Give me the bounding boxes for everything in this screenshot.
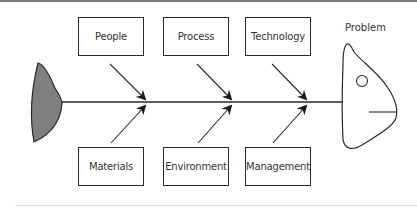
- cause-label: Process: [178, 31, 215, 42]
- cause-label: Environment: [165, 161, 227, 172]
- fish-head-icon: [342, 44, 396, 149]
- branch-arrow-materials: [111, 106, 145, 143]
- fish-eye-icon: [357, 76, 368, 87]
- cause-label: Materials: [89, 161, 133, 172]
- cause-label: People: [95, 31, 127, 42]
- cause-box-environment: Environment: [163, 147, 229, 186]
- cause-box-people: People: [78, 17, 144, 56]
- branch-arrow-technology: [272, 64, 306, 99]
- problem-label: Problem: [345, 22, 386, 33]
- cause-label: Technology: [251, 31, 305, 42]
- cause-box-materials: Materials: [78, 147, 144, 186]
- cause-label: Management: [246, 161, 310, 172]
- branch-arrow-process: [197, 64, 231, 99]
- branch-arrow-environment: [198, 106, 231, 143]
- cause-box-management: Management: [245, 147, 311, 186]
- cause-box-process: Process: [163, 17, 229, 56]
- branch-arrow-people: [110, 64, 145, 99]
- bottom-border-rule: [15, 205, 417, 206]
- branch-arrow-management: [273, 106, 306, 143]
- fish-tail-icon: [31, 63, 62, 142]
- cause-box-technology: Technology: [245, 17, 311, 56]
